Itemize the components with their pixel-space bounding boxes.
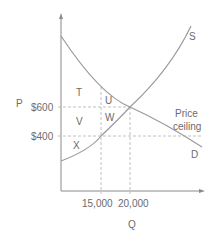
region-t-label: T — [76, 87, 82, 98]
y-axis-arrow-icon — [59, 13, 63, 19]
supply-label: S — [189, 31, 196, 42]
price-ceiling-label-line2: ceiling — [173, 121, 201, 132]
region-w-label: W — [105, 112, 115, 123]
supply-demand-diagram: S D Price ceiling P Q $600 $400 15,000 2… — [0, 0, 214, 245]
region-u-label: U — [105, 95, 112, 106]
region-v-label: V — [76, 116, 83, 127]
price-tick-400: $400 — [31, 131, 54, 142]
quantity-tick-20000: 20,000 — [118, 198, 149, 209]
demand-label: D — [191, 149, 198, 160]
price-ceiling-label-line1: Price — [175, 108, 198, 119]
y-axis-label: P — [16, 98, 23, 109]
x-axis-arrow-icon — [199, 189, 205, 193]
x-axis-label: Q — [128, 219, 136, 230]
quantity-tick-15000: 15,000 — [82, 198, 113, 209]
price-tick-600: $600 — [31, 102, 54, 113]
region-x-label: X — [73, 140, 80, 151]
